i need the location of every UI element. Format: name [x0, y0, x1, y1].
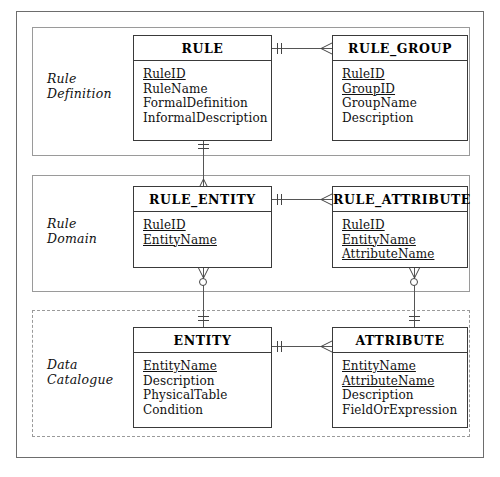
attribute-row: PhysicalTable — [143, 388, 271, 403]
cardinality-one-tick-re-b — [281, 194, 282, 205]
entity-title-entity: ENTITY — [134, 328, 271, 353]
attribute-row: EntityName — [342, 359, 467, 374]
cardinality-zero-circle-attribute-rule-attribute — [410, 278, 418, 286]
entity-attributes-rule-entity: RuleID EntityName — [134, 212, 271, 251]
attribute-row: AttributeName — [342, 247, 467, 262]
attribute-row: AttributeName — [342, 374, 467, 389]
attribute-row: FieldOrExpression — [342, 403, 467, 418]
cardinality-one-tick-entity-b — [198, 320, 209, 321]
entity-box-rule-attribute[interactable]: RULE_ATTRIBUTE RuleID EntityName Attribu… — [332, 186, 468, 268]
attribute-row: InformalDescription — [143, 111, 271, 126]
cardinality-one-tick-ea-a — [277, 341, 278, 352]
entity-attributes-attribute: EntityName AttributeName Description Fie… — [333, 353, 467, 421]
attribute-row: EntityName — [143, 359, 271, 374]
entity-box-attribute[interactable]: ATTRIBUTE EntityName AttributeName Descr… — [332, 327, 468, 428]
entity-box-rule-group[interactable]: RULE_GROUP RuleID GroupID GroupName Desc… — [332, 35, 468, 141]
entity-attributes-entity: EntityName Description PhysicalTable Con… — [134, 353, 271, 421]
entity-box-rule-entity[interactable]: RULE_ENTITY RuleID EntityName — [133, 186, 272, 268]
entity-box-rule[interactable]: RULE RuleID RuleName FormalDefinition In… — [133, 35, 272, 141]
cardinality-one-tick-rule-a — [277, 43, 278, 54]
section-label-data-catalogue: Data Catalogue — [47, 357, 113, 387]
entity-attributes-rule: RuleID RuleName FormalDefinition Informa… — [134, 61, 271, 129]
entity-attributes-rule-attribute: RuleID EntityName AttributeName — [333, 212, 467, 266]
entity-title-rule: RULE — [134, 36, 271, 61]
cardinality-one-tick-attribute-b — [409, 320, 420, 321]
cardinality-zero-circle-entity-rule-entity — [199, 278, 207, 286]
cardinality-one-tick-rule-entity-a — [198, 144, 209, 145]
attribute-row: Description — [342, 388, 467, 403]
attribute-row: FormalDefinition — [143, 96, 271, 111]
attribute-row: RuleID — [143, 67, 271, 82]
entity-title-rule-attribute: RULE_ATTRIBUTE — [333, 187, 467, 212]
attribute-row: Description — [143, 374, 271, 389]
entity-title-attribute: ATTRIBUTE — [333, 328, 467, 353]
attribute-row: RuleName — [143, 82, 271, 97]
cardinality-one-tick-rule-entity-b — [198, 148, 209, 149]
attribute-row: RuleID — [342, 218, 467, 233]
entity-box-entity[interactable]: ENTITY EntityName Description PhysicalTa… — [133, 327, 272, 428]
attribute-row: EntityName — [143, 233, 271, 248]
entity-title-rule-entity: RULE_ENTITY — [134, 187, 271, 212]
attribute-row: GroupName — [342, 96, 467, 111]
attribute-row: Description — [342, 111, 467, 126]
attribute-row: Condition — [143, 403, 271, 418]
section-label-rule-domain: Rule Domain — [47, 216, 97, 246]
cardinality-one-tick-re-a — [277, 194, 278, 205]
cardinality-one-tick-ea-b — [281, 341, 282, 352]
cardinality-one-tick-rule-b — [281, 43, 282, 54]
entity-title-rule-group: RULE_GROUP — [333, 36, 467, 61]
er-diagram-canvas: Rule Definition Rule Domain Data Catalog… — [0, 0, 500, 477]
cardinality-one-tick-entity-a — [198, 316, 209, 317]
attribute-row: RuleID — [143, 218, 271, 233]
attribute-row: RuleID — [342, 67, 467, 82]
entity-attributes-rule-group: RuleID GroupID GroupName Description — [333, 61, 467, 129]
section-label-rule-definition: Rule Definition — [47, 71, 112, 101]
cardinality-one-tick-attribute-a — [409, 316, 420, 317]
attribute-row: GroupID — [342, 82, 467, 97]
attribute-row: EntityName — [342, 233, 467, 248]
